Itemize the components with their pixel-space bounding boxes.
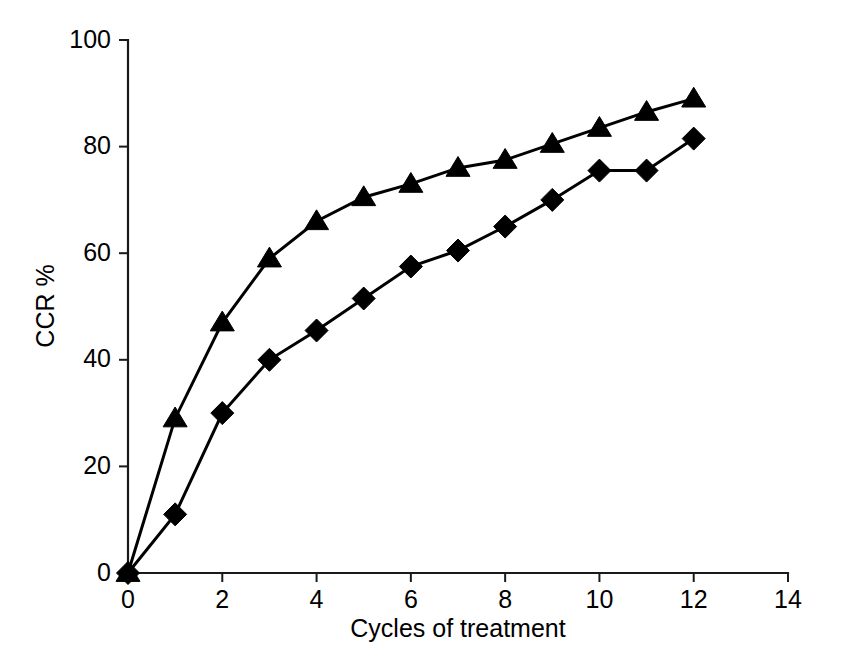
y-axis-title: CCR % — [31, 264, 59, 347]
x-tick-label: 14 — [774, 585, 802, 613]
series-line-diamond — [128, 139, 694, 573]
x-axis-ticks: 02468101214 — [121, 573, 802, 613]
x-tick-label: 4 — [310, 585, 324, 613]
y-tick-label: 40 — [83, 344, 111, 372]
chart-figure: 020406080100 02468101214 CCR % Cycles of… — [0, 0, 847, 661]
data-point-diamond — [399, 255, 422, 278]
y-tick-label: 100 — [69, 25, 111, 53]
data-point-triangle — [210, 311, 234, 331]
data-point-diamond — [305, 319, 328, 342]
data-point-diamond — [588, 159, 611, 182]
data-point-triangle — [305, 210, 329, 230]
data-point-diamond — [682, 127, 705, 150]
y-tick-label: 60 — [83, 238, 111, 266]
line-chart: 020406080100 02468101214 CCR % Cycles of… — [0, 0, 847, 661]
x-tick-label: 10 — [586, 585, 614, 613]
x-tick-label: 6 — [404, 585, 418, 613]
y-tick-label: 0 — [97, 558, 111, 586]
data-point-diamond — [447, 239, 470, 262]
y-tick-label: 20 — [83, 451, 111, 479]
data-point-diamond — [494, 215, 517, 238]
series-group — [116, 87, 706, 584]
data-point-diamond — [352, 287, 375, 310]
x-axis-title: Cycles of treatment — [350, 614, 565, 642]
y-tick-label: 80 — [83, 131, 111, 159]
data-point-triangle — [682, 87, 706, 107]
x-tick-label: 12 — [680, 585, 708, 613]
x-tick-label: 2 — [215, 585, 229, 613]
x-tick-label: 0 — [121, 585, 135, 613]
x-tick-label: 8 — [498, 585, 512, 613]
data-point-triangle — [163, 407, 187, 427]
data-point-diamond — [635, 159, 658, 182]
data-point-diamond — [541, 188, 564, 211]
y-axis-ticks: 020406080100 — [69, 25, 128, 586]
